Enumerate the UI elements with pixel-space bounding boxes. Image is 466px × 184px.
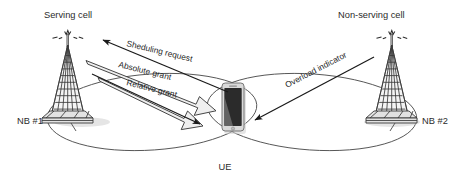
- label-ue: UE: [219, 162, 232, 172]
- label-serving-cell: Serving cell: [44, 10, 92, 20]
- label-nb-1: NB #1: [17, 116, 43, 126]
- label-non-serving-cell: Non-serving cell: [338, 10, 405, 20]
- diagram-canvas: Sheduling request Absolute grant Relativ…: [0, 0, 466, 184]
- phone-earpiece: [229, 85, 237, 86]
- arrow-label-overload-indicator: Overload indicator: [283, 49, 348, 89]
- tower-base-non-serving: [366, 111, 417, 123]
- phone-home-button: [231, 127, 234, 130]
- label-nb-2: NB #2: [422, 116, 448, 126]
- tower-base-serving: [42, 111, 93, 123]
- tower-non-serving-cell: [364, 30, 420, 131]
- arrow-label-scheduling-request: Sheduling request: [126, 38, 195, 64]
- arrow-overload-indicator: Overload indicator: [255, 49, 374, 120]
- cell-scheduling-diagram: Sheduling request Absolute grant Relativ…: [0, 0, 466, 184]
